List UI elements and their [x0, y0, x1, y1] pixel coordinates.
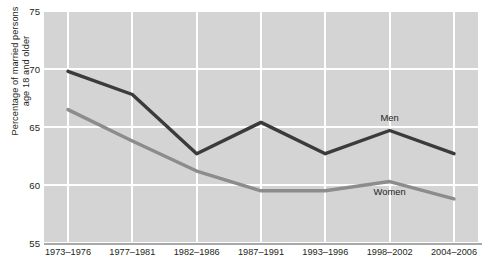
- line-chart: Percentage of married persons age 18 and…: [0, 0, 492, 269]
- x-tick-label: 1987–1991: [238, 247, 284, 257]
- series-lines: [44, 11, 478, 243]
- y-tick-label: 55: [0, 238, 40, 249]
- y-tick-label: 65: [0, 122, 40, 133]
- x-tick-label: 1973–1976: [45, 247, 91, 257]
- y-tick-label: 60: [0, 180, 40, 191]
- x-tick-label: 1982–1986: [174, 247, 220, 257]
- series-label-men: Men: [381, 111, 399, 122]
- x-tick-label: 1977–1981: [109, 247, 155, 257]
- x-axis-line: [44, 243, 482, 245]
- y-tick-label: 70: [0, 64, 40, 75]
- series-label-women: Women: [374, 185, 406, 196]
- y-axis-title: Percentage of married persons age 18 and…: [10, 0, 32, 166]
- plot-area: [44, 11, 478, 243]
- y-tick-label: 75: [0, 6, 40, 17]
- x-tick-label: 2004–2006: [431, 247, 477, 257]
- x-tick-label: 1998–2002: [367, 247, 413, 257]
- x-tick-label: 1993–1996: [302, 247, 348, 257]
